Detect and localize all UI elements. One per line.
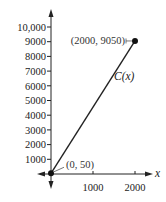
x-tick-label: 1000 xyxy=(83,182,104,193)
curve-label-arg: (x) xyxy=(122,70,135,83)
y-tick-label: 7000 xyxy=(25,66,46,77)
y-tick-label: 5000 xyxy=(25,95,46,106)
y-tick-label: 8000 xyxy=(25,51,46,62)
y-axis-up-arrow xyxy=(49,9,54,17)
series-line-cx xyxy=(51,41,135,173)
data-point xyxy=(48,170,54,176)
y-tick-label: 9000 xyxy=(25,36,46,47)
series-layer xyxy=(51,41,135,173)
cost-function-chart: 10002000300040005000600070008000900010,0… xyxy=(0,0,166,202)
y-tick-label: 4000 xyxy=(25,110,46,121)
x-axis-left-arrow xyxy=(37,172,45,177)
curve-label: C(x) xyxy=(114,70,135,83)
x-axis-right-arrow xyxy=(145,172,153,177)
y-axis-down-arrow xyxy=(49,181,54,189)
point-label: (2000, 9050) xyxy=(71,35,126,47)
point-label: (0, 50) xyxy=(66,159,94,171)
point-leader xyxy=(54,167,64,172)
x-axis-label: x xyxy=(154,167,161,179)
y-tick-label: 10,000 xyxy=(17,22,46,33)
y-ticks: 10002000300040005000600070008000900010,0… xyxy=(17,22,51,165)
y-tick-label: 2000 xyxy=(25,139,46,150)
y-tick-label: 3000 xyxy=(25,125,46,136)
y-tick-label: 6000 xyxy=(25,81,46,92)
y-tick-label: 1000 xyxy=(25,154,46,165)
x-tick-label: 2000 xyxy=(125,182,146,193)
data-point xyxy=(132,38,138,44)
